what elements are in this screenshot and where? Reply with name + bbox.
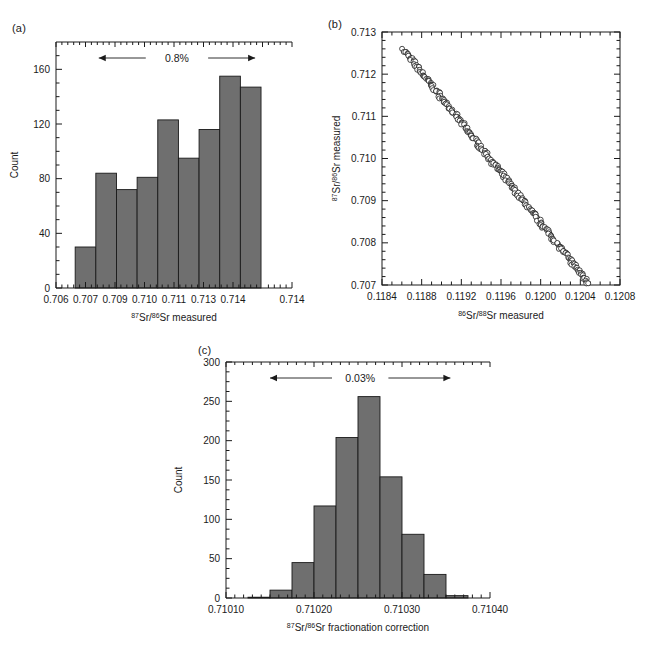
- y-axis-tick-label: 250: [203, 396, 220, 407]
- y-axis-tick-label: 0.707: [351, 280, 376, 291]
- y-axis-tick-label: 0.713: [351, 27, 376, 38]
- x-axis-tick-label: 0.709: [102, 294, 127, 305]
- y-axis-tick-label: 0: [214, 593, 220, 604]
- x-axis-tick-label: 0.1196: [486, 291, 516, 302]
- y-axis-tick-label: 50: [209, 553, 221, 564]
- histogram-bar: [96, 173, 117, 288]
- y-axis-tick-label: 0.708: [351, 237, 376, 248]
- x-axis-tick-label: 0.706: [43, 294, 68, 305]
- x-axis-tick-label: 0.714: [279, 294, 304, 305]
- x-axis-tick-label: 0.71030: [384, 604, 421, 615]
- histogram-bar: [336, 438, 358, 598]
- y-axis-tick-label: 40: [39, 228, 51, 239]
- panel-a: (a) 040801201600.7060.7070.7090.7100.711…: [0, 0, 330, 330]
- histogram-bar: [424, 574, 446, 598]
- x-axis-tick-label: 0.1192: [446, 291, 476, 302]
- x-axis-tick-label: 0.711: [162, 294, 187, 305]
- y-axis-tick-label: 0: [44, 283, 50, 294]
- x-axis-tick-label: 0.1204: [565, 291, 596, 302]
- histogram-bar: [358, 397, 380, 598]
- x-axis-title: 87Sr/86Sr fractionation correction: [287, 622, 429, 634]
- x-axis-title: 87Sr/86Sr measured: [131, 312, 217, 324]
- panel-b-letter: (b): [328, 18, 342, 30]
- y-axis-tick-label: 80: [39, 173, 51, 184]
- panel-c-chart: 0501001502002503000.710100.710200.710300…: [150, 340, 550, 647]
- arrow-head-left-icon: [99, 55, 106, 61]
- y-axis-tick-label: 150: [203, 475, 220, 486]
- bars-group-c: [248, 397, 468, 598]
- histogram-bar: [380, 477, 402, 598]
- panel-c-letter: (c): [198, 344, 211, 356]
- x-axis-tick-label: 0.71010: [208, 604, 245, 615]
- x-axis-tick-label: 0.1200: [525, 291, 556, 302]
- y-axis-tick-label: 160: [33, 64, 50, 75]
- scatter-point: [586, 281, 591, 286]
- panel-b-chart: 0.11840.11880.11920.11960.12000.12040.12…: [320, 0, 650, 330]
- y-axis-title: Count: [9, 151, 20, 178]
- histogram-bar: [75, 247, 96, 288]
- x-axis-tick-label: 0.71040: [472, 604, 509, 615]
- y-axis-tick-label: 100: [203, 514, 220, 525]
- histogram-bar: [402, 534, 424, 598]
- histogram-bar: [314, 506, 336, 598]
- x-axis-tick-label: 0.707: [73, 294, 98, 305]
- annotation-label: 0.03%: [345, 372, 375, 384]
- histogram-bar: [137, 177, 158, 288]
- x-axis-tick-label: 0.1208: [605, 291, 636, 302]
- y-axis-title: Count: [173, 466, 184, 493]
- histogram-bar: [292, 563, 314, 598]
- panel-a-chart: 040801201600.7060.7070.7090.7100.7110.71…: [0, 0, 330, 330]
- arrow-head-left-icon: [270, 375, 277, 381]
- panel-b: (b) 0.11840.11880.11920.11960.12000.1204…: [320, 0, 650, 330]
- bars-group-a: [75, 76, 261, 288]
- histogram-bar: [240, 87, 261, 288]
- y-axis-tick-label: 200: [203, 435, 220, 446]
- y-axis-tick-label: 0.712: [351, 69, 376, 80]
- histogram-bar: [199, 129, 220, 288]
- histogram-bar: [270, 590, 292, 598]
- annotation-label: 0.8%: [165, 52, 189, 64]
- panel-c: (c) 0501001502002503000.710100.710200.71…: [150, 340, 550, 647]
- histogram-bar: [178, 158, 199, 288]
- y-axis-tick-label: 120: [33, 119, 50, 130]
- y-axis-title: 87Sr/86Sr measured: [331, 116, 343, 202]
- arrow-head-right-icon: [248, 55, 255, 61]
- histogram-bar: [158, 120, 179, 288]
- x-axis-tick-label: 0.713: [191, 294, 216, 305]
- x-axis-tick-label: 0.1188: [407, 291, 437, 302]
- y-axis-tick-label: 0.709: [351, 195, 376, 206]
- y-axis-tick-label: 300: [203, 357, 220, 368]
- x-axis-tick-label: 0.1184: [367, 291, 397, 302]
- x-axis-tick-label: 0.710: [132, 294, 157, 305]
- histogram-bar: [220, 76, 241, 288]
- range-annotation-a: 0.8%: [99, 52, 255, 64]
- range-annotation-c: 0.03%: [270, 372, 450, 384]
- y-axis-tick-label: 0.711: [352, 111, 377, 122]
- x-axis-tick-label: 0.71020: [296, 604, 333, 615]
- x-axis-title: 86Sr/88Sr measured: [458, 310, 544, 322]
- x-axis-tick-label: 0.714: [220, 294, 245, 305]
- scatter-points-group: [400, 46, 591, 286]
- arrow-head-right-icon: [443, 375, 450, 381]
- histogram-bar: [116, 190, 137, 288]
- panel-a-letter: (a): [12, 22, 26, 34]
- y-axis-tick-label: 0.710: [351, 153, 376, 164]
